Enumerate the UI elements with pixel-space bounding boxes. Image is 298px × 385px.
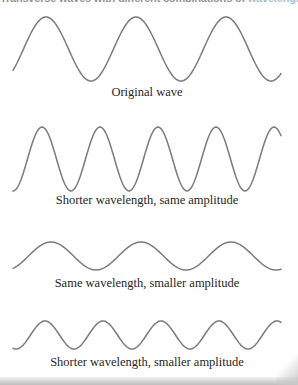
wave-label-original: Original wave xyxy=(0,85,294,100)
wave-label-same-smaller: Same wavelength, smaller amplitude xyxy=(0,276,294,291)
diagram-page: Transverse waves with different combinat… xyxy=(0,0,298,385)
wave-label-shorter-smaller: Shorter wavelength, smaller amplitude xyxy=(0,355,294,370)
wave-label-shorter-same: Shorter wavelength, same amplitude xyxy=(0,193,294,208)
wave-shorter-wavelength-smaller-amplitude xyxy=(13,321,281,349)
wave-original xyxy=(13,17,281,81)
wave-same-wavelength-smaller-amplitude xyxy=(13,242,281,270)
wave-shorter-wavelength-same-amplitude xyxy=(13,127,281,191)
page-corner-shade xyxy=(276,351,298,385)
